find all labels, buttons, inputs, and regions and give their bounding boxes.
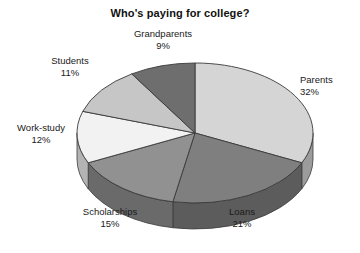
slice-label-students-value: 11% — [30, 67, 110, 79]
slice-label-scholarships-value: 15% — [62, 218, 158, 230]
slice-label-work-study-value: 12% — [2, 134, 80, 146]
slice-label-scholarships: Scholarships 15% — [62, 206, 158, 229]
slice-label-work-study-name: Work-study — [2, 122, 80, 134]
slice-label-students-name: Students — [30, 55, 110, 67]
pie-chart-figure: Who's paying for college? Grandparents 9… — [0, 0, 360, 253]
slice-label-parents: Parents 32% — [300, 74, 358, 97]
slice-label-loans-value: 21% — [212, 218, 272, 230]
slice-label-loans-name: Loans — [212, 206, 272, 218]
slice-label-loans: Loans 21% — [212, 206, 272, 229]
slice-label-grandparents-name: Grandparents — [108, 28, 218, 40]
slice-label-parents-name: Parents — [300, 74, 358, 86]
slice-label-work-study: Work-study 12% — [2, 122, 80, 145]
slice-label-scholarships-name: Scholarships — [62, 206, 158, 218]
slice-label-students: Students 11% — [30, 55, 110, 78]
pie-top-faces — [77, 63, 313, 203]
slice-label-grandparents-value: 9% — [108, 40, 218, 52]
slice-label-parents-value: 32% — [300, 86, 358, 98]
slice-label-grandparents: Grandparents 9% — [108, 28, 218, 51]
